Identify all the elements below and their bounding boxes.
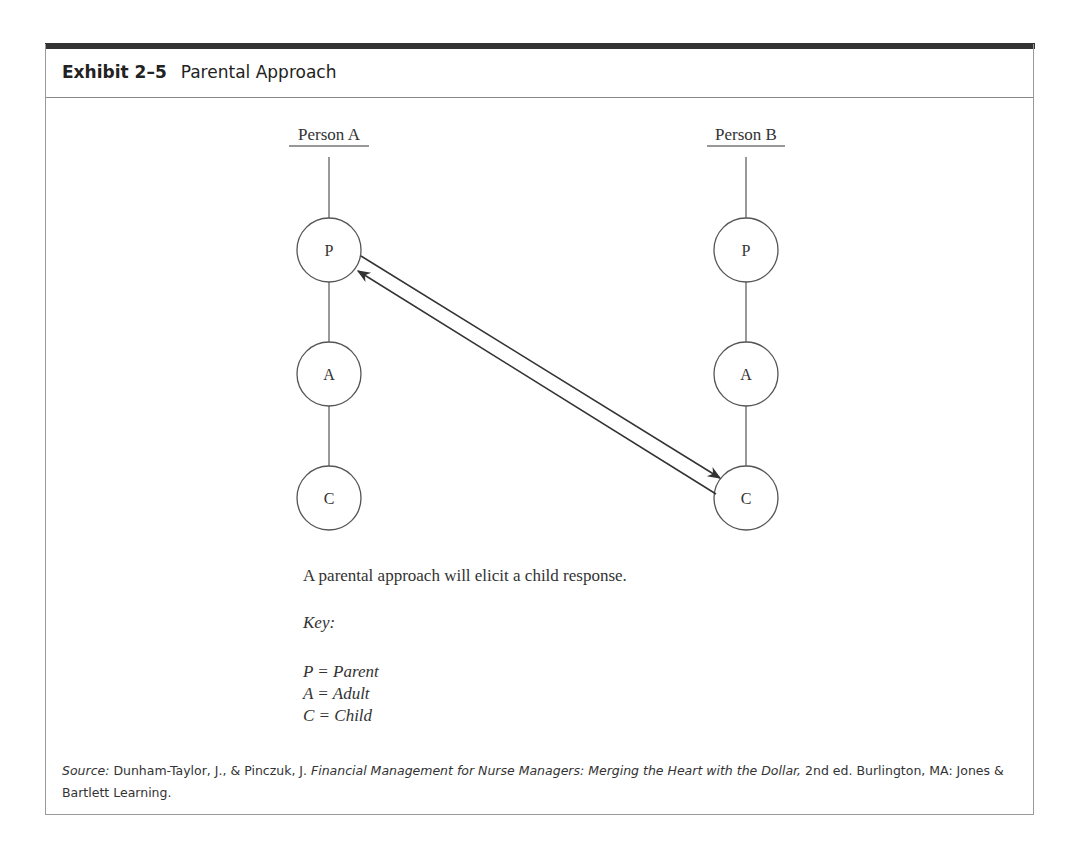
person-b-column: Person B P A C	[707, 125, 785, 530]
svg-text:A: A	[740, 366, 752, 383]
svg-text:P: P	[325, 242, 334, 259]
key-item-child: C = Child	[303, 706, 372, 726]
svg-text:A: A	[323, 366, 335, 383]
key-item-parent: P = Parent	[303, 662, 379, 682]
svg-text:C: C	[324, 490, 335, 507]
source-book-title: Financial Management for Nurse Managers:…	[311, 763, 801, 778]
source-citation: Source: Dunham-Taylor, J., & Pinczuk, J.…	[62, 760, 1012, 804]
arrow-a-parent-to-b-child	[361, 256, 720, 478]
key-label: Key:	[303, 613, 335, 633]
person-a-column: Person A P A C	[289, 125, 369, 530]
person-b-label: Person B	[715, 125, 777, 144]
arrow-b-child-to-a-parent	[358, 271, 716, 494]
key-item-adult: A = Adult	[303, 684, 370, 704]
diagram-caption: A parental approach will elicit a child …	[303, 566, 627, 586]
person-a-label: Person A	[298, 125, 361, 144]
svg-text:C: C	[741, 490, 752, 507]
svg-text:P: P	[742, 242, 751, 259]
ego-state-diagram: Person A P A C Person B P A C	[0, 0, 1069, 860]
